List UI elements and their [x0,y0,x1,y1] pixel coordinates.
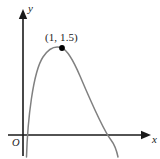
vertex-coordinate-label: (1, 1.5) [45,32,78,43]
vertex-point-marker [59,45,65,51]
x-axis [8,131,151,139]
parabola-figure: y x O (1, 1.5) [0,0,160,159]
parabola-path [27,47,119,157]
y-axis-arrowhead-icon [19,9,27,19]
parabola-curve [27,47,119,157]
y-axis-label: y [28,3,33,14]
graph-canvas [0,0,160,159]
x-axis-label: x [152,134,157,145]
x-axis-arrowhead-icon [141,131,151,139]
origin-label: O [12,138,20,149]
y-axis [19,9,27,156]
